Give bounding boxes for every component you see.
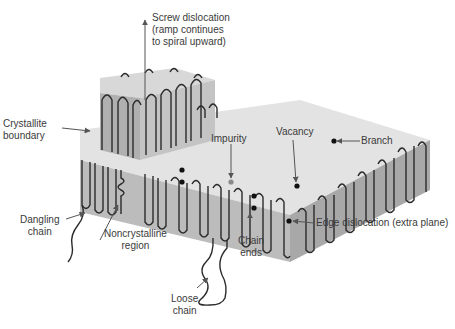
polymer-crystallite-diagram: Screw dislocation (ramp continues to spi… [0, 0, 455, 329]
noncrystalline-dot-2 [179, 179, 184, 184]
branch-dot [331, 138, 336, 143]
label-dangling-chain: Dangling chain [20, 214, 59, 238]
chain-end-dot-2 [251, 205, 256, 210]
dangling-chain [68, 205, 83, 262]
label-loose-chain: Loose chain [171, 293, 198, 317]
label-crystallite-boundary: Crystallite boundary [3, 118, 47, 142]
loose-chain [199, 238, 227, 305]
label-chain-ends: Chain ends [238, 235, 264, 259]
edge-dislocation-dot [286, 218, 291, 223]
noncrystalline-dot-1 [179, 167, 184, 172]
label-screw-dislocation: Screw dislocation (ramp continues to spi… [152, 12, 230, 48]
diagram-canvas [0, 0, 455, 329]
chain-end-dot-1 [251, 193, 256, 198]
label-branch: Branch [361, 135, 393, 147]
label-vacancy: Vacancy [276, 126, 314, 138]
vacancy-dot [294, 183, 299, 188]
label-edge-dislocation: Edge dislocation (extra plane) [316, 217, 448, 229]
label-noncrystalline-region: Noncrystalline region [104, 228, 167, 252]
impurity-dot [228, 179, 233, 184]
label-impurity: Impurity [211, 133, 247, 145]
